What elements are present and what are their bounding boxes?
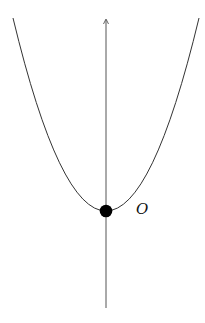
vertex-point bbox=[100, 205, 113, 218]
parabola-diagram: O bbox=[0, 0, 205, 323]
vertex-label: O bbox=[136, 200, 148, 218]
